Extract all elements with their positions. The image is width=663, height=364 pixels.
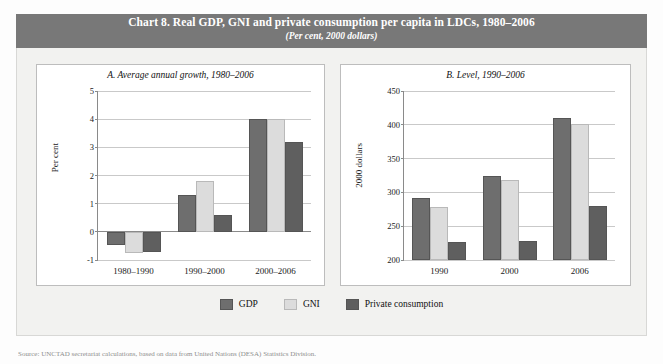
legend-label: GNI: [303, 299, 320, 309]
y-tick-label: 1: [90, 199, 94, 209]
y-tick-mark: [95, 147, 98, 148]
y-tick-mark: [95, 175, 98, 176]
bar-private-consumption-1990-2000: [214, 215, 232, 232]
panel-a-y-axis-label: Per cent: [50, 143, 60, 172]
y-tick-label: 5: [90, 86, 94, 96]
chart-legend: GDPGNIPrivate consumption: [0, 296, 663, 312]
y-tick-label: 300: [387, 187, 400, 197]
bar-gni-2000-2006: [267, 119, 285, 232]
legend-swatch-icon: [284, 299, 297, 310]
y-tick-mark: [401, 124, 404, 125]
legend-item-private-consumption: Private consumption: [346, 299, 443, 310]
panel-b-plot-area: 200250300350400450199020002006: [403, 91, 615, 261]
legend-item-gdp: GDP: [220, 299, 258, 310]
y-tick-mark: [95, 91, 98, 92]
y-tick-label: 350: [387, 154, 400, 164]
panel-a-plot-area: -10123451980–19901990–20002000–2006: [97, 91, 311, 261]
panel-b-title: B. Level, 1990–2006: [341, 70, 630, 80]
gridline: [98, 260, 311, 261]
x-tick-label: 2000–2006: [255, 266, 296, 276]
y-tick-mark: [401, 260, 404, 261]
y-tick-label: 450: [387, 86, 400, 96]
gridline: [98, 91, 311, 92]
y-tick-label: 2: [90, 171, 94, 181]
legend-swatch-icon: [346, 299, 359, 310]
panel-b-y-axis-label: 2000 dollars: [354, 143, 364, 188]
bar-gdp-1990-2000: [178, 195, 196, 232]
x-tick-label: 2000: [501, 266, 519, 276]
legend-item-gni: GNI: [284, 299, 320, 310]
bar-private-consumption-2000-2006: [285, 142, 303, 232]
x-tick-label: 2006: [571, 266, 589, 276]
y-tick-label: 0: [90, 227, 94, 237]
source-note: Source: UNCTAD secretariat calculations,…: [18, 350, 638, 362]
y-tick-mark: [401, 226, 404, 227]
bar-gdp-1980-1990: [107, 232, 125, 245]
legend-label: Private consumption: [365, 299, 443, 309]
bar-private-consumption-2006: [589, 206, 607, 260]
bar-gni-2006: [571, 124, 589, 260]
y-tick-label: 250: [387, 221, 400, 231]
x-tick-label: 1990: [430, 266, 448, 276]
y-tick-mark: [95, 119, 98, 120]
bar-gdp-2000: [483, 176, 501, 260]
chart-subtitle: (Per cent, 2000 dollars): [16, 31, 647, 41]
bar-private-consumption-1980-1990: [143, 232, 161, 252]
y-tick-label: -1: [87, 255, 94, 265]
bar-gni-2000: [501, 180, 519, 260]
bar-gni-1980-1990: [125, 232, 143, 253]
y-tick-label: 400: [387, 120, 400, 130]
bar-gdp-2000-2006: [249, 119, 267, 232]
bar-gdp-2006: [553, 118, 571, 260]
panel-a-title: A. Average annual growth, 1980–2006: [37, 70, 324, 80]
y-tick-mark: [401, 158, 404, 159]
y-tick-mark: [401, 192, 404, 193]
bar-private-consumption-1990: [448, 242, 466, 260]
bar-gni-1990-2000: [196, 181, 214, 232]
bar-gni-1990: [430, 207, 448, 260]
chart-page: Chart 8. Real GDP, GNI and private consu…: [0, 0, 663, 364]
chart-title: Chart 8. Real GDP, GNI and private consu…: [16, 16, 647, 28]
y-tick-mark: [95, 203, 98, 204]
panel-a: A. Average annual growth, 1980–2006 Per …: [36, 64, 325, 286]
bar-private-consumption-2000: [519, 241, 537, 260]
y-tick-mark: [401, 91, 404, 92]
legend-label: GDP: [239, 299, 258, 309]
legend-swatch-icon: [220, 299, 233, 310]
y-tick-mark: [95, 260, 98, 261]
x-tick-label: 1980–1990: [113, 266, 154, 276]
panel-b: B. Level, 1990–2006 2000 dollars 2002503…: [340, 64, 631, 286]
chart-header-band: Chart 8. Real GDP, GNI and private consu…: [16, 14, 647, 48]
y-tick-label: 3: [90, 142, 94, 152]
y-tick-label: 200: [387, 255, 400, 265]
x-tick-label: 1990–2000: [184, 266, 225, 276]
y-tick-mark: [95, 231, 98, 232]
gridline: [404, 91, 615, 92]
y-tick-label: 4: [90, 114, 94, 124]
bar-gdp-1990: [412, 198, 430, 260]
